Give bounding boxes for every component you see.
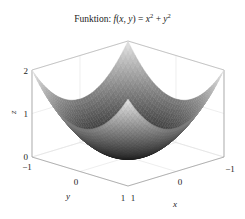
svg-text:−1: −1 [225, 164, 235, 174]
svg-text:1: 1 [24, 109, 29, 119]
svg-text:1: 1 [131, 193, 136, 203]
x-axis-label: x [172, 199, 177, 209]
svg-text:0: 0 [74, 177, 79, 187]
svg-text:−1: −1 [22, 162, 32, 172]
chart-figure: Funktion: f(x, y) = x2 + y2 012−10110−1 … [0, 0, 245, 219]
axes-front [32, 157, 224, 186]
svg-text:2: 2 [24, 66, 29, 76]
svg-text:0: 0 [178, 177, 183, 187]
surface-mesh [32, 41, 224, 159]
svg-text:1: 1 [121, 193, 126, 203]
z-axis-label: z [8, 110, 18, 115]
y-axis-label: y [65, 191, 70, 201]
svg-text:0: 0 [24, 152, 29, 162]
surface-plot: 012−10110−1 x y z [0, 0, 245, 219]
